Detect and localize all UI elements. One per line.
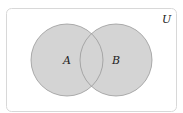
universe-label: U [162, 13, 172, 26]
set-b-label: B [111, 54, 120, 67]
venn-diagram: A B U [0, 0, 183, 113]
set-a-label: A [62, 54, 71, 67]
